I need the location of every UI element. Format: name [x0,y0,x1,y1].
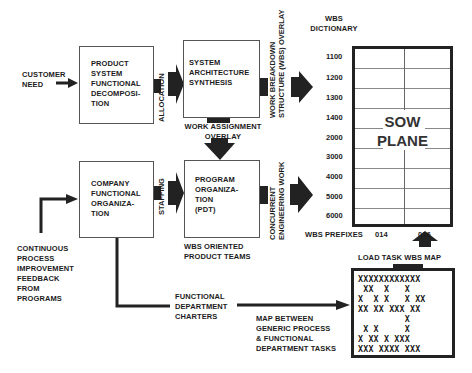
continuous-improvement-label: CONTINUOUS PROCESS IMPROVEMENT FEEDBACK … [17,244,74,304]
matrix-row: XX XX XXX XX [358,304,420,314]
concurrent-engineering-label: CONCURRENT ENGINEERING WORK [268,162,286,240]
map-between-label: MAP BETWEEN GENERIC PROCESS & FUNCTIONAL… [256,314,336,354]
product-decomposition-box: PRODUCT SYSTEM FUNCTIONAL DECOMPOSI- TIO… [79,46,154,124]
staffing-label: STAFFING [157,178,166,215]
matrix-row: X [358,314,420,324]
company-functional-organization-box: COMPANY FUNCTIONAL ORGANIZA- TION [79,161,154,238]
program-organization-box: PROGRAM ORGANIZA- TION (PDT) [184,160,260,238]
system-architecture-box: SYSTEM ARCHITECTURE SYNTHESIS [183,40,260,118]
wbs-oriented-teams-label: WBS ORIENTED PRODUCT TEAMS [184,242,251,262]
matrix-row: XXXXXXXXXXXX [358,274,420,284]
matrix-row: XX X X [358,284,420,294]
prefix-014: 014 [375,230,388,240]
matrix-row: X X X X XX [358,294,426,304]
work-assignment-overlay-label: WORK ASSIGNMENT OVERLAY [178,122,268,142]
customer-need-label: CUSTOMER NEED [22,70,66,90]
matrix-row: XXX XXXX XXX [358,344,420,354]
allocation-label: ALLOCATION [157,73,166,122]
matrix-row: X XX X XXX [358,334,420,344]
wbs-dictionary-label: WBS DICTIONARY [304,14,364,34]
wbs-overlay-label: WORK BREAKDOWN STRUCTURE (WBS) OVERLAY [268,10,286,118]
task-matrix: XXXXXXXXXXXX XX X X X X X X XX XX XX XXX… [351,268,455,358]
prefix-016: 016 [418,230,431,240]
wbs-prefixes-label: WBS PREFIXES [305,230,363,240]
matrix-row: X X X [358,324,420,334]
functional-department-charters-label: FUNCTIONAL DEPARTMENT CHARTERS [175,292,228,322]
load-task-wbs-map-label: LOAD TASK WBS MAP [358,253,441,263]
sow-plane-title: SOW PLANE [352,112,453,150]
